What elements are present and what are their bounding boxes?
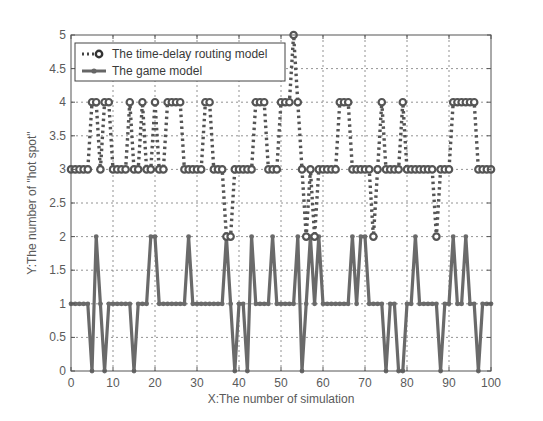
y-tick-label: 2.5 bbox=[49, 196, 66, 210]
y-tick-label: 0 bbox=[59, 364, 66, 378]
x-tick-label: 50 bbox=[274, 376, 288, 390]
x-tick-label: 100 bbox=[481, 376, 501, 390]
y-tick-label: 0.5 bbox=[49, 330, 66, 344]
x-tick-label: 80 bbox=[400, 376, 414, 390]
y-tick-label: 1 bbox=[59, 297, 66, 311]
x-tick-label: 10 bbox=[106, 376, 120, 390]
grid-lines bbox=[71, 35, 491, 371]
x-tick-label: 0 bbox=[68, 376, 75, 390]
y-tick-label: 4.5 bbox=[49, 62, 66, 76]
x-tick-label: 40 bbox=[232, 376, 246, 390]
x-tick-label: 90 bbox=[442, 376, 456, 390]
x-tick-label: 60 bbox=[316, 376, 330, 390]
y-axis-label: Y:The number of "hot spot" bbox=[25, 131, 39, 274]
y-tick-label: 4 bbox=[59, 95, 66, 109]
line-chart: 0102030405060708090100 00.511.522.533.54… bbox=[0, 0, 543, 421]
legend-label-time-delay: The time-delay routing model bbox=[112, 47, 267, 61]
legend-label-game: The game model bbox=[112, 64, 202, 78]
x-axis-label: X:The number of simulation bbox=[208, 392, 355, 406]
x-tick-label: 20 bbox=[148, 376, 162, 390]
x-tick-label: 30 bbox=[190, 376, 204, 390]
y-tick-label: 3.5 bbox=[49, 129, 66, 143]
y-tick-labels: 00.511.522.533.544.55 bbox=[49, 28, 66, 378]
y-tick-label: 5 bbox=[59, 28, 66, 42]
y-tick-label: 1.5 bbox=[49, 263, 66, 277]
x-tick-labels: 0102030405060708090100 bbox=[68, 376, 502, 390]
y-tick-label: 2 bbox=[59, 230, 66, 244]
y-tick-label: 3 bbox=[59, 162, 66, 176]
legend: The time-delay routing model The game mo… bbox=[75, 43, 285, 81]
x-tick-label: 70 bbox=[358, 376, 372, 390]
